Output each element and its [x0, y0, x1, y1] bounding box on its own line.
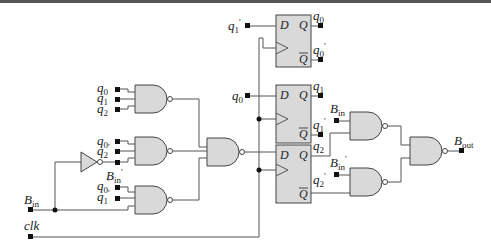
flipflop-0: D Q Q: [276, 15, 311, 67]
nand-upper-right: [350, 112, 388, 140]
ff1-d-input-terminal: [245, 93, 250, 98]
ff0-d-input-terminal: [245, 23, 250, 28]
nand-lower-right: [350, 168, 388, 196]
ff1-qbar-label: q1': [313, 116, 326, 134]
nand-output: [410, 137, 448, 165]
ff1-d-input-label: q0: [232, 88, 244, 105]
b-in-label: Bin: [24, 192, 39, 209]
ff0-q-label: q0: [313, 8, 325, 25]
ff2-d-pin: D: [279, 148, 289, 162]
ff0-d-pin: D: [279, 18, 289, 32]
clk-label: clk: [24, 218, 39, 233]
b-out-label: Bout: [454, 133, 474, 150]
ff2-q-pin: Q: [299, 148, 308, 162]
ff1-d-pin: D: [279, 88, 289, 102]
ff0-qbar-pin: Q: [299, 52, 308, 66]
nand-gate-3: [135, 186, 173, 214]
b-in-upper-terminal: [334, 118, 339, 123]
nand-middle: [207, 138, 245, 166]
b-in-lower-terminal: [334, 172, 339, 177]
b-in-upper-label: Bin: [330, 101, 345, 118]
clk-terminal: [28, 234, 33, 239]
ff1-q-pin: Q: [299, 88, 308, 102]
ff2-q-label: q2: [313, 138, 324, 155]
circuit-diagram: D Q Q D Q Q D Q Q q1' q0 q0 q0' q1 q1' q…: [0, 0, 491, 250]
ff1-q-label: q1: [313, 78, 324, 95]
ff0-q-pin: Q: [299, 18, 308, 32]
b-in-lower-label: Bin': [330, 154, 347, 172]
flipflop-1: D Q Q: [276, 85, 311, 143]
ff0-qbar-label: q0': [313, 41, 326, 59]
flipflop-2: D Q Q: [276, 145, 311, 203]
ff2-qbar-pin: Q: [299, 187, 308, 201]
ff1-qbar-pin: Q: [299, 127, 308, 141]
ff0-d-input-label: q1': [228, 17, 241, 35]
nand-gate-2: [135, 137, 173, 165]
ff2-qbar-label: q2': [313, 171, 326, 189]
nand-gate-1: [135, 85, 173, 113]
